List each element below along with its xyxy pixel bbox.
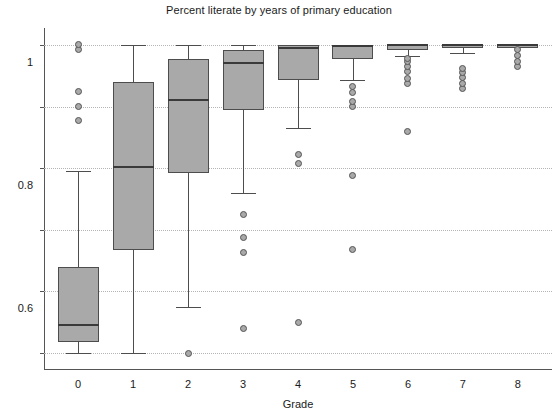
outlier-point: [240, 234, 247, 241]
whisker-cap-lower: [450, 53, 475, 54]
gridline-y: [44, 291, 552, 292]
whisker-cap-lower: [340, 80, 365, 81]
y-tick-mark: 0.8: [40, 107, 44, 108]
outlier-point: [295, 319, 302, 326]
outlier-point: [240, 325, 247, 332]
chart-title: Percent literate by years of primary edu…: [0, 4, 558, 16]
x-tick-label: 6: [405, 378, 411, 390]
x-tick-label: 0: [75, 378, 81, 390]
whisker-cap-upper: [66, 171, 91, 172]
y-tick-mark: 0.2: [40, 291, 44, 292]
y-tick-label: 1: [27, 56, 33, 68]
whisker-cap-lower: [176, 307, 201, 308]
whisker-lower: [78, 342, 79, 353]
y-tick-mark: 1: [40, 45, 44, 46]
median-line: [58, 324, 99, 326]
median-line: [113, 166, 154, 168]
x-tick-label: 1: [130, 378, 136, 390]
whisker-cap-upper: [231, 45, 256, 46]
whisker-upper: [78, 171, 79, 267]
y-axis-spine: [44, 28, 45, 370]
y-tick-label: 0.8: [18, 179, 33, 191]
y-tick-label: 0.6: [18, 302, 33, 314]
outlier-point: [349, 89, 356, 96]
median-line: [278, 47, 319, 49]
box-iqr: [223, 50, 264, 110]
whisker-cap-upper: [121, 45, 146, 46]
outlier-point: [75, 103, 82, 110]
y-tick-mark: 0.4: [40, 230, 44, 231]
median-line: [387, 44, 428, 46]
whisker-cap-lower: [231, 193, 256, 194]
x-tick-label: 3: [240, 378, 246, 390]
whisker-cap-lower: [286, 128, 311, 129]
x-axis-spine: [44, 369, 552, 370]
whisker-lower: [188, 173, 189, 307]
box-iqr: [58, 267, 99, 342]
box-iqr: [168, 59, 209, 173]
x-tick-label: 7: [460, 378, 466, 390]
outlier-point: [459, 65, 466, 72]
outlier-point: [349, 172, 356, 179]
median-line: [442, 44, 483, 46]
outlier-point: [75, 88, 82, 95]
whisker-lower: [298, 80, 299, 128]
outlier-point: [185, 350, 192, 357]
box-iqr: [278, 45, 319, 80]
outlier-point: [295, 160, 302, 167]
median-line: [223, 62, 264, 64]
outlier-point: [349, 83, 356, 90]
outlier-point: [514, 52, 521, 59]
chart-figure: Percent literate by years of primary edu…: [0, 0, 558, 420]
whisker-lower: [353, 59, 354, 81]
x-tick-label: 4: [295, 378, 301, 390]
whisker-cap-upper: [176, 45, 201, 46]
outlier-point: [240, 211, 247, 218]
whisker-lower: [243, 110, 244, 193]
median-line: [332, 45, 373, 47]
outlier-point: [240, 249, 247, 256]
outlier-point: [514, 46, 521, 53]
outlier-point: [75, 117, 82, 124]
x-tick-label: 2: [185, 378, 191, 390]
x-tick-label: 5: [350, 378, 356, 390]
y-tick-mark: 0: [40, 353, 44, 354]
x-axis-title: Grade: [44, 398, 552, 410]
whisker-upper: [188, 45, 189, 59]
median-line: [168, 99, 209, 101]
outlier-point: [404, 128, 411, 135]
plot-area: 00.20.40.60.81 012345678: [44, 28, 552, 370]
whisker-cap-lower: [66, 353, 91, 354]
whisker-upper: [133, 45, 134, 82]
whisker-cap-lower: [121, 353, 146, 354]
whisker-lower: [133, 250, 134, 353]
outlier-point: [295, 151, 302, 158]
y-tick-mark: 0.6: [40, 168, 44, 169]
outlier-point: [349, 246, 356, 253]
x-tick-label: 8: [515, 378, 521, 390]
